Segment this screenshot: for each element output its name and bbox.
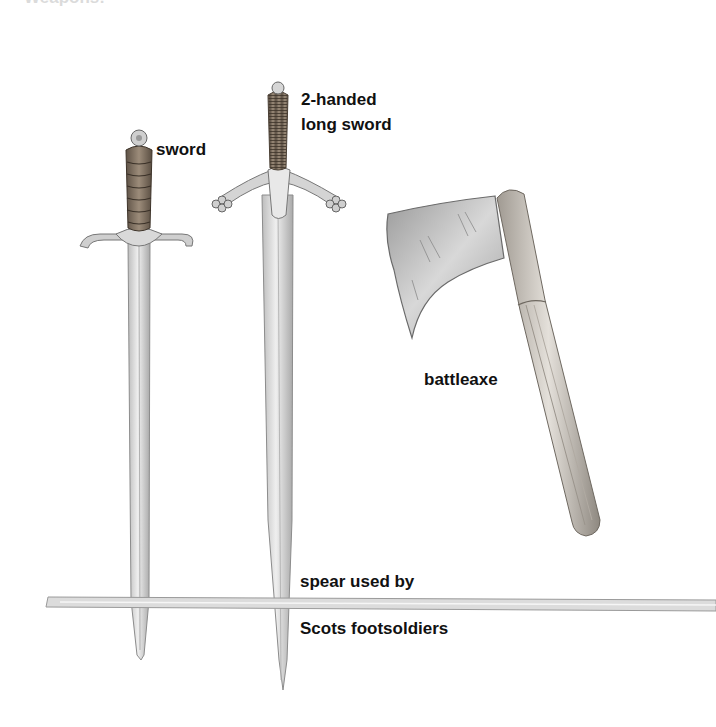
sword-drawing <box>80 130 193 660</box>
sword-label: sword <box>156 138 206 162</box>
spear-label-line1: spear used by <box>300 570 414 594</box>
spear-label-line2: Scots footsoldiers <box>300 617 448 641</box>
battleaxe-label: battleaxe <box>424 368 498 392</box>
longsword-label-line2: long sword <box>301 113 392 137</box>
battleaxe-drawing <box>387 190 600 536</box>
longsword-label-line1: 2-handed <box>301 88 377 112</box>
